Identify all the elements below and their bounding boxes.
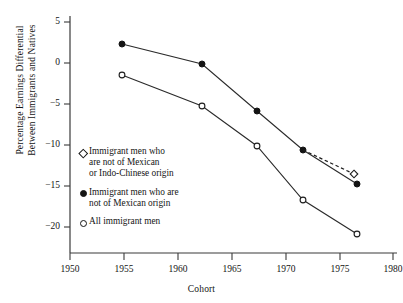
- x-tick-label-1970: 1970: [266, 264, 306, 274]
- legend-label-not-mexican-or-indochinese: Immigrant men who are not of Mexican or …: [89, 146, 174, 180]
- x-axis-title: Cohort: [0, 283, 403, 295]
- x-tick-label-1960: 1960: [158, 264, 198, 274]
- y-axis-title: Percentage Earnings Differential Between…: [14, 10, 38, 170]
- filled-circle-marker-icon: [78, 187, 89, 198]
- legend-label-not-mexican-origin: Immigrant men who are not of Mexican ori…: [89, 187, 179, 209]
- x-tick-label-1965: 1965: [212, 264, 252, 274]
- x-tick-label-1955: 1955: [104, 264, 144, 274]
- y-tick-label-m20: −20: [30, 221, 60, 231]
- series-markers-not-mexican-or-indochinese: [350, 170, 358, 178]
- open-diamond-marker-icon: [78, 146, 89, 156]
- legend-item-all-immigrant-men: All immigrant men: [78, 216, 179, 227]
- open-circle-marker-icon: [78, 216, 89, 227]
- chart-plot-area: [0, 0, 403, 303]
- series-line-not-mexican-or-indochinese: [303, 150, 354, 174]
- y-tick-label-m15: −15: [30, 180, 60, 190]
- legend-item-not-mexican-origin: Immigrant men who are not of Mexican ori…: [78, 187, 179, 209]
- legend-item-not-mexican-or-indochinese: Immigrant men who are not of Mexican or …: [78, 146, 179, 180]
- x-tick-label-1980: 1980: [373, 264, 403, 274]
- y-tick-marks: [64, 22, 70, 227]
- x-tick-label-1975: 1975: [320, 264, 360, 274]
- chart-legend: Immigrant men who are not of Mexican or …: [78, 146, 179, 234]
- figure-container: 5 0 −5 −10 −15 −20 1950 1955 1960 1965 1…: [0, 0, 403, 303]
- x-tick-label-1950: 1950: [50, 264, 90, 274]
- legend-label-all-immigrant-men: All immigrant men: [89, 216, 160, 227]
- x-tick-marks: [70, 253, 393, 260]
